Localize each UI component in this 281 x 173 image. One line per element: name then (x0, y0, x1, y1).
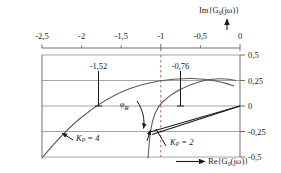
pointer-kp-4 (62, 133, 73, 140)
xtick-label-0: -2,5 (35, 32, 48, 41)
ytick-label-4: -0,5 (248, 153, 261, 162)
xtick-label-2: -1,5 (114, 32, 127, 41)
phase-margin-ray-lower (152, 106, 240, 135)
ytick-label-0: 0,5 (248, 51, 259, 60)
real-axis-title: Re{G₀(jω)} (208, 157, 248, 166)
curve-label-kp4-value: = 4 (85, 133, 99, 143)
nyquist-plot-figure: -2,5 -2 -1,5 -1 -0,5 0 0,5 0,25 0 -0,25 … (0, 0, 281, 173)
curve-label-kp2-value: = 2 (179, 137, 193, 147)
phase-margin-subscript: R (124, 104, 128, 111)
ytick-label-3: -0,25 (248, 128, 266, 137)
grid-lines (42, 55, 240, 157)
xtick-label-5: 0 (238, 32, 242, 41)
annotation-crossing-kp2: -0,76 (172, 62, 190, 71)
locus-kp-4 (42, 78, 235, 158)
right-axis-ticks (240, 55, 245, 157)
xtick-label-1: -2 (78, 32, 85, 41)
curve-label-kp-2: KP = 2 (170, 138, 193, 148)
xtick-label-3: -1 (157, 32, 164, 41)
annotation-phase-margin: φR (120, 101, 129, 111)
ytick-label-2: 0 (248, 102, 252, 111)
phase-margin-arc (137, 101, 144, 129)
plot-canvas (0, 0, 281, 173)
ytick-label-1: 0,25 (248, 77, 263, 86)
imaginary-axis-title: Im{G₀(jω)} (199, 6, 239, 15)
xtick-label-4: -0,5 (194, 32, 207, 41)
curve-label-kp-4: KP = 4 (76, 134, 99, 144)
annotation-crossing-kp4: -1,52 (90, 62, 108, 71)
